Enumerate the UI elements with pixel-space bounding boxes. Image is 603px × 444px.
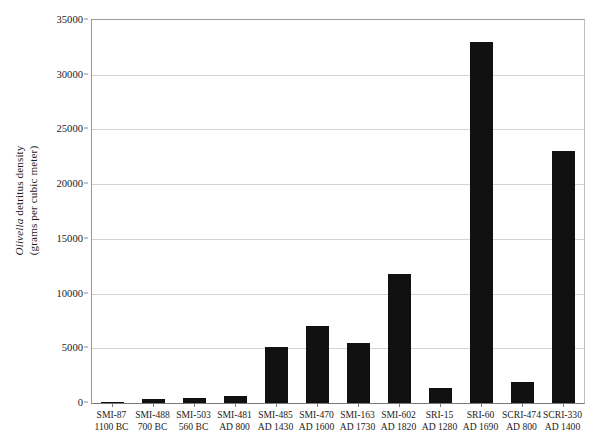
- bar-slot: [461, 20, 502, 403]
- x-axis-tick-label-site: SMI-470: [296, 409, 337, 421]
- bar-slot: [256, 20, 297, 403]
- x-axis-tick-label: SRI-60AD 1690: [460, 409, 501, 434]
- bar-slot: [174, 20, 215, 403]
- x-axis-tick-slot: [542, 403, 583, 408]
- x-axis-tick-slot: [419, 403, 460, 408]
- x-axis-tick-mark: [153, 403, 154, 407]
- bar-series: [92, 20, 584, 403]
- x-axis-tick-label: SRI-15AD 1280: [419, 409, 460, 434]
- y-axis-tick-mark: [84, 183, 88, 184]
- y-axis-tick-label: 0: [78, 397, 83, 408]
- y-axis-tick-mark: [84, 19, 88, 20]
- x-axis-tick-label-site: SCRI-330: [542, 409, 583, 421]
- y-axis-tick-mark: [84, 237, 88, 238]
- x-axis-tick-label-date: 700 BC: [132, 421, 173, 433]
- x-axis-tick-label-date: AD 1690: [460, 421, 501, 433]
- x-axis-tick-label-site: SCRI-474: [501, 409, 542, 421]
- bar: [511, 382, 533, 403]
- bar-slot: [420, 20, 461, 403]
- bar: [429, 388, 451, 403]
- bar: [552, 151, 574, 403]
- bar: [347, 343, 369, 403]
- x-axis-tick-label-date: AD 1400: [542, 421, 583, 433]
- y-axis-tick-label: 5000: [62, 342, 83, 353]
- x-axis-tick-mark: [112, 403, 113, 407]
- y-axis-tick-label: 30000: [57, 68, 83, 79]
- x-axis-tick-label: SMI-488700 BC: [132, 409, 173, 434]
- x-axis-tick-slot: [214, 403, 255, 408]
- x-axis-tick-mark: [440, 403, 441, 407]
- x-axis-tick-label-site: SRI-15: [419, 409, 460, 421]
- y-axis-title-genus: Olivella: [13, 218, 25, 255]
- x-axis-tick-slot: [91, 403, 132, 408]
- x-axis-tick-label-site: SMI-602: [378, 409, 419, 421]
- x-axis-tick-label-site: SMI-481: [214, 409, 255, 421]
- y-axis-tick-mark: [84, 128, 88, 129]
- x-axis-tick-slot: [132, 403, 173, 408]
- x-axis-tick-mark: [399, 403, 400, 407]
- y-axis-tick-label: 10000: [57, 287, 83, 298]
- x-axis-tick-label: SMI-871100 BC: [91, 409, 132, 434]
- x-axis-tick-label: SCRI-474AD 800: [501, 409, 542, 434]
- bar-slot: [215, 20, 256, 403]
- x-axis-tick-label-date: AD 800: [501, 421, 542, 433]
- x-axis-tick-slot: [337, 403, 378, 408]
- x-axis-tick-label-site: SMI-503: [173, 409, 214, 421]
- x-axis-tick-label-date: 560 BC: [173, 421, 214, 433]
- x-axis-tick-slot: [296, 403, 337, 408]
- y-axis-title-text: Olivella detritus density (grams per cub…: [13, 145, 40, 255]
- x-axis-tick-label-date: AD 1820: [378, 421, 419, 433]
- x-axis-tick-label: SMI-481AD 800: [214, 409, 255, 434]
- bar-slot: [543, 20, 584, 403]
- bar-slot: [297, 20, 338, 403]
- x-axis-tick-mark: [481, 403, 482, 407]
- x-axis-tick-labels: SMI-871100 BCSMI-488700 BCSMI-503560 BCS…: [91, 409, 583, 434]
- x-axis-tick-label-site: SMI-485: [255, 409, 296, 421]
- y-axis-title: Olivella detritus density (grams per cub…: [0, 0, 52, 400]
- bar: [306, 326, 328, 403]
- x-axis-tick-mark: [522, 403, 523, 407]
- x-axis-tick-label: SMI-503560 BC: [173, 409, 214, 434]
- bar-chart-figure: Olivella detritus density (grams per cub…: [0, 0, 603, 444]
- x-axis-tick-label-date: AD 1280: [419, 421, 460, 433]
- bar: [470, 42, 492, 403]
- y-axis-title-line-1-rest: detritus density: [13, 145, 25, 218]
- x-axis-tick-label-site: SRI-60: [460, 409, 501, 421]
- y-axis-title-line-1: Olivella detritus density: [13, 145, 27, 255]
- bar: [265, 347, 287, 403]
- x-axis-tick-mark: [194, 403, 195, 407]
- y-axis-tick-mark: [84, 402, 88, 403]
- x-axis-tick-label: SMI-163AD 1730: [337, 409, 378, 434]
- x-axis-tick-mark: [317, 403, 318, 407]
- bar: [224, 396, 246, 403]
- x-axis-tick-mark: [358, 403, 359, 407]
- x-axis-tick-label-date: AD 1430: [255, 421, 296, 433]
- x-axis-tick-label-date: AD 1730: [337, 421, 378, 433]
- bar-slot: [379, 20, 420, 403]
- x-axis-tick-slot: [460, 403, 501, 408]
- x-axis-tick-marks: [91, 403, 583, 408]
- y-axis-tick-label: 15000: [57, 232, 83, 243]
- bar-slot: [133, 20, 174, 403]
- y-axis-tick-mark: [84, 292, 88, 293]
- x-axis-tick-mark: [563, 403, 564, 407]
- x-axis-tick-label: SMI-470AD 1600: [296, 409, 337, 434]
- y-axis-tick-label: 20000: [57, 178, 83, 189]
- y-axis-title-line-2: (grams per cubic meter): [26, 145, 40, 255]
- x-axis-tick-label-date: AD 800: [214, 421, 255, 433]
- bar-slot: [92, 20, 133, 403]
- y-axis-tick-labels: 05000100001500020000250003000035000: [46, 19, 88, 402]
- x-axis-tick-label-site: SMI-488: [132, 409, 173, 421]
- x-axis-tick-slot: [378, 403, 419, 408]
- bar-slot: [502, 20, 543, 403]
- x-axis-tick-slot: [173, 403, 214, 408]
- x-axis-tick-label-date: AD 1600: [296, 421, 337, 433]
- plot-area: [91, 19, 585, 404]
- bar: [388, 274, 410, 403]
- x-axis-tick-slot: [255, 403, 296, 408]
- x-axis-tick-slot: [501, 403, 542, 408]
- x-axis-tick-label-site: SMI-163: [337, 409, 378, 421]
- x-axis-tick-label-site: SMI-87: [91, 409, 132, 421]
- y-axis-tick-mark: [84, 347, 88, 348]
- y-axis-tick-label: 35000: [57, 14, 83, 25]
